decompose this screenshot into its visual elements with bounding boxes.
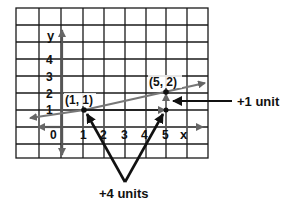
y-tick-1: 1	[46, 103, 53, 117]
y-tick-3: 3	[46, 70, 53, 84]
point-label-1-1: (1, 1)	[65, 93, 93, 107]
slope-line	[30, 110, 84, 118]
x-tick-5: 5	[162, 128, 169, 142]
run-annotation-arrow-right	[125, 114, 163, 182]
point-label-5-2: (5, 2)	[149, 75, 177, 89]
point-5-2	[163, 89, 169, 95]
point-1-1	[81, 107, 87, 113]
run-annotation-label: +4 units	[99, 186, 149, 201]
origin-label: 0	[50, 128, 57, 142]
y-axis-label: y	[47, 28, 55, 43]
slope-diagram: y 4 3 2 1 0 1 2 3 4 5 x (1, 1) (5, 2) +1…	[0, 0, 288, 211]
run-annotation-arrow-left	[87, 114, 125, 182]
x-tick-2: 2	[100, 128, 107, 142]
x-axis-label: x	[180, 127, 188, 142]
y-tick-4: 4	[46, 53, 53, 67]
rise-annotation-label: +1 unit	[237, 94, 280, 109]
x-tick-4: 4	[141, 128, 148, 142]
point-5-1	[164, 108, 169, 113]
x-tick-3: 3	[121, 128, 128, 142]
y-tick-2: 2	[46, 87, 53, 101]
x-tick-1: 1	[80, 128, 87, 142]
